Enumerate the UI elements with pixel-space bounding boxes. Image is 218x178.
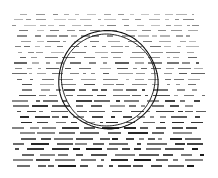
texture-field: [0, 0, 218, 178]
scan-figure: [0, 0, 218, 178]
